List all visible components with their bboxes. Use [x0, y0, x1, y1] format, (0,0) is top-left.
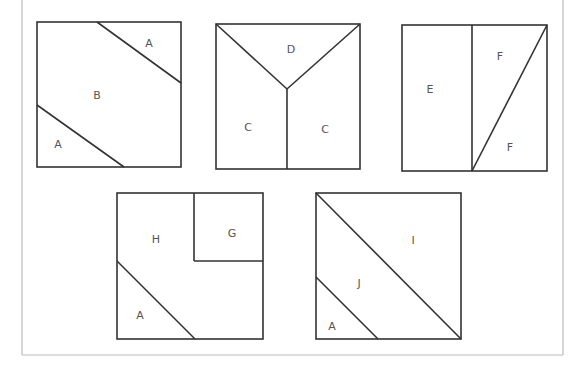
- quilt-diagram: ABADCCEFFHGAIJA: [0, 0, 582, 374]
- seam-line: [117, 261, 195, 339]
- piece-label: A: [328, 320, 336, 333]
- block-1: ABA: [37, 22, 181, 167]
- piece-label: I: [411, 234, 414, 247]
- piece-label: A: [54, 138, 62, 151]
- piece-label: J: [356, 277, 360, 290]
- seam-line: [316, 277, 378, 339]
- piece-label: B: [93, 89, 101, 102]
- piece-label: D: [287, 43, 295, 56]
- piece-label: C: [244, 121, 252, 134]
- piece-label: A: [136, 309, 144, 322]
- diagram-canvas: ABADCCEFFHGAIJA: [0, 0, 582, 374]
- block-3: EFF: [402, 25, 547, 171]
- seam-line: [316, 193, 461, 339]
- block-2: DCC: [216, 24, 360, 169]
- piece-label: E: [427, 83, 434, 96]
- seam-line: [287, 24, 360, 89]
- piece-label: F: [497, 50, 503, 63]
- piece-label: C: [321, 123, 329, 136]
- piece-label: G: [228, 227, 237, 240]
- seam-line: [97, 22, 181, 83]
- piece-label: F: [507, 141, 513, 154]
- block-5: IJA: [316, 193, 461, 339]
- piece-label: A: [145, 37, 153, 50]
- quilt-blocks: ABADCCEFFHGAIJA: [37, 22, 547, 339]
- piece-label: H: [152, 233, 160, 246]
- seam-line: [37, 105, 124, 167]
- block-4: HGA: [117, 193, 263, 339]
- seam-line: [216, 24, 287, 89]
- block-outline: [402, 25, 547, 171]
